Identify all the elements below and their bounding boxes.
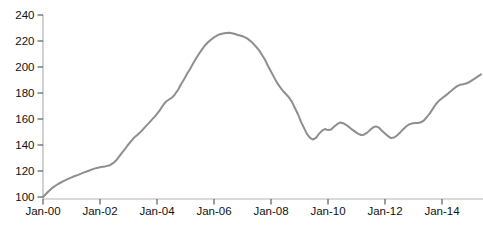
y-tick-label: 180 <box>15 87 34 99</box>
y-tick-label: 160 <box>15 113 34 125</box>
x-tick-label: Jan-14 <box>424 205 460 217</box>
line-chart: 100120140160180200220240Jan-00Jan-02Jan-… <box>0 0 483 231</box>
x-tick-label: Jan-04 <box>139 205 175 217</box>
x-tick-label: Jan-02 <box>82 205 117 217</box>
y-tick-label: 100 <box>15 191 34 203</box>
chart-container: 100120140160180200220240Jan-00Jan-02Jan-… <box>0 0 483 231</box>
y-tick-label: 220 <box>15 35 34 47</box>
x-tick-label: Jan-10 <box>310 205 345 217</box>
x-tick-label: Jan-08 <box>253 205 288 217</box>
y-tick-label: 200 <box>15 61 34 73</box>
y-tick-label: 240 <box>15 9 34 21</box>
chart-background <box>0 0 483 231</box>
x-tick-label: Jan-06 <box>196 205 231 217</box>
x-tick-label: Jan-12 <box>367 205 402 217</box>
y-tick-label: 140 <box>15 139 34 151</box>
y-tick-label: 120 <box>15 165 34 177</box>
x-tick-label: Jan-00 <box>25 205 60 217</box>
